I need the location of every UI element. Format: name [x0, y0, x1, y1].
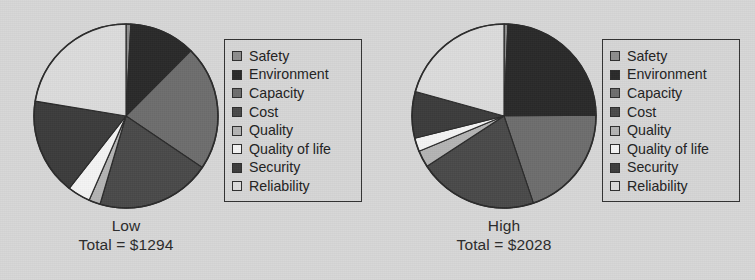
legend-swatch-icon — [232, 181, 242, 191]
legend-label: Safety — [249, 49, 289, 64]
panel-total: Total = $1294 — [0, 235, 252, 254]
legend-swatch-icon — [232, 144, 242, 154]
legend-item-safety: Safety — [232, 47, 361, 66]
legend-item-cost: Cost — [610, 103, 739, 122]
legend-swatch-icon — [610, 163, 620, 173]
legend-swatch-icon — [232, 70, 242, 80]
legend-label: Quality of life — [627, 142, 709, 157]
legend-swatch-icon — [610, 181, 620, 191]
legend-label: Environment — [249, 67, 329, 82]
legend-swatch-icon — [610, 70, 620, 80]
legend-swatch-icon — [232, 163, 242, 173]
legend-item-security: Security — [610, 159, 739, 178]
legend-swatch-icon — [610, 107, 620, 117]
legend-item-environment: Environment — [610, 66, 739, 85]
legend-item-reliability: Reliability — [232, 177, 361, 196]
legend-swatch-icon — [610, 88, 620, 98]
legend-swatch-icon — [610, 144, 620, 154]
legend-low: Safety Environment Capacity Cost Quality… — [224, 39, 362, 202]
legend-item-quality-of-life: Quality of life — [232, 140, 361, 159]
legend-label: Capacity — [627, 86, 682, 101]
panel-caption-low: Low Total = $1294 — [0, 216, 252, 254]
chart-panel-low: Low Total = $1294 Safety Environment Cap… — [0, 0, 377, 280]
legend-item-cost: Cost — [232, 103, 361, 122]
legend-label: Capacity — [249, 86, 304, 101]
legend-swatch-icon — [232, 107, 242, 117]
legend-label: Quality — [249, 123, 293, 138]
legend-swatch-icon — [610, 126, 620, 136]
pie-slices-high — [412, 24, 596, 208]
pie-chart-low — [32, 22, 220, 210]
legend-swatch-icon — [232, 88, 242, 98]
legend-item-capacity: Capacity — [610, 84, 739, 103]
legend-label: Safety — [627, 49, 667, 64]
legend-label: Cost — [627, 105, 656, 120]
legend-high: Safety Environment Capacity Cost Quality… — [602, 39, 740, 202]
legend-item-environment: Environment — [232, 66, 361, 85]
legend-swatch-icon — [610, 51, 620, 61]
legend-label: Quality — [627, 123, 671, 138]
legend-item-quality-of-life: Quality of life — [610, 140, 739, 159]
panel-title: Low — [0, 216, 252, 235]
legend-item-capacity: Capacity — [232, 84, 361, 103]
legend-swatch-icon — [232, 126, 242, 136]
pie-slices-low — [34, 24, 218, 208]
panel-title: High — [378, 216, 630, 235]
legend-swatch-icon — [232, 51, 242, 61]
chart-panel-high: High Total = $2028 Safety Environment Ca… — [378, 0, 755, 280]
pie-slice — [35, 24, 126, 116]
panel-caption-high: High Total = $2028 — [378, 216, 630, 254]
legend-label: Reliability — [249, 179, 310, 194]
legend-item-reliability: Reliability — [610, 177, 739, 196]
legend-item-safety: Safety — [610, 47, 739, 66]
legend-label: Quality of life — [249, 142, 331, 157]
panel-total: Total = $2028 — [378, 235, 630, 254]
pie-svg-high — [410, 22, 598, 210]
pie-slice — [504, 24, 596, 116]
legend-label: Security — [627, 160, 678, 175]
pie-svg-low — [32, 22, 220, 210]
legend-label: Cost — [249, 105, 278, 120]
legend-item-quality: Quality — [610, 121, 739, 140]
legend-item-quality: Quality — [232, 121, 361, 140]
legend-label: Reliability — [627, 179, 688, 194]
legend-item-security: Security — [232, 159, 361, 178]
legend-label: Security — [249, 160, 300, 175]
legend-label: Environment — [627, 67, 707, 82]
pie-chart-high — [410, 22, 598, 210]
